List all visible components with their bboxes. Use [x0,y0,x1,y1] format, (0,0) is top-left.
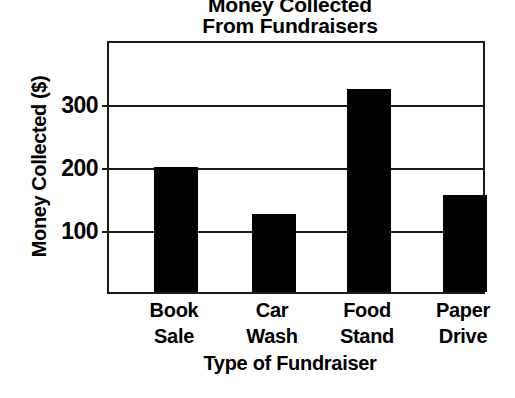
tick-mark-200 [102,168,109,170]
bar-car-wash [252,214,296,292]
bar-chart: Money Collected From Fundraisers Money C… [0,0,515,398]
x-axis-labels: Book Sale Car Wash Food Stand Paper Driv… [107,297,485,353]
x-label-food-stand-line-1: Food [323,297,411,323]
chart-title-line-1: Money Collected [95,0,485,15]
x-label-book-sale: Book Sale [130,297,218,349]
plot-area: 300 200 100 [107,41,485,294]
x-label-paper-drive-line-2: Drive [419,323,507,349]
bar-food-stand [347,89,391,292]
y-axis-title: Money Collected ($) [28,32,51,302]
x-label-paper-drive: Paper Drive [419,297,507,349]
x-label-paper-drive-line-1: Paper [419,297,507,323]
x-label-food-stand: Food Stand [323,297,411,349]
chart-title-line-2: From Fundraisers [95,15,485,36]
x-axis-title: Type of Fundraiser [95,352,485,375]
x-label-car-wash: Car Wash [228,297,316,349]
x-label-car-wash-line-1: Car [228,297,316,323]
chart-title: Money Collected From Fundraisers [95,0,485,36]
gridline-300: 300 [109,105,483,107]
x-label-car-wash-line-2: Wash [228,323,316,349]
x-label-food-stand-line-2: Stand [323,323,411,349]
y-tick-label-300: 300 [61,94,98,117]
bar-book-sale [154,167,198,292]
tick-mark-100 [102,231,109,233]
tick-mark-300 [102,105,109,107]
y-tick-label-100: 100 [61,220,98,243]
x-label-book-sale-line-2: Sale [130,323,218,349]
y-tick-label-200: 200 [61,157,98,180]
x-label-book-sale-line-1: Book [130,297,218,323]
bar-paper-drive [443,195,487,292]
